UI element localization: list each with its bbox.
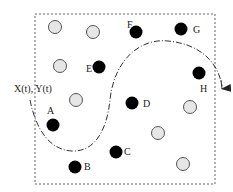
filled-node-h — [193, 67, 206, 80]
open-nodes-group — [49, 21, 197, 171]
node-label-f: F — [127, 20, 133, 30]
filled-node-d — [126, 97, 139, 110]
node-label-b: B — [84, 162, 91, 172]
node-label-e: E — [86, 64, 92, 74]
node-label-h: H — [200, 84, 207, 94]
open-node — [54, 60, 67, 73]
trajectory-curve — [30, 41, 222, 151]
filled-node-b — [69, 161, 82, 174]
open-node — [152, 127, 165, 140]
trajectory-arrow — [221, 80, 222, 89]
filled-node-e — [93, 61, 106, 74]
filled-node-g — [175, 23, 188, 36]
open-node — [70, 94, 83, 107]
node-label-c: C — [124, 147, 131, 157]
node-label-a: A — [47, 106, 54, 116]
region-frame — [35, 14, 215, 184]
open-node — [184, 101, 197, 114]
trajectory-label: X(t), Y(t) — [14, 84, 52, 94]
node-label-g: G — [193, 25, 200, 35]
open-node — [49, 21, 62, 34]
node-label-d: D — [143, 99, 150, 109]
open-node — [177, 158, 190, 171]
open-node — [87, 26, 100, 39]
filled-node-a — [47, 119, 60, 132]
filled-node-c — [110, 146, 123, 159]
